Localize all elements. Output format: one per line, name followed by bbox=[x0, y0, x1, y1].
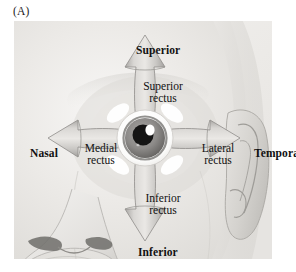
eyeball bbox=[117, 110, 173, 166]
eye-muscle-diagram: Superior Inferior Nasal Temporal Superio… bbox=[14, 21, 272, 261]
anatomy-illustration bbox=[14, 21, 272, 261]
panel-label: (A) bbox=[13, 5, 30, 17]
corneal-highlight bbox=[145, 124, 154, 135]
figure-panel: (A) bbox=[0, 0, 296, 272]
corneal-highlight-small bbox=[136, 144, 139, 146]
